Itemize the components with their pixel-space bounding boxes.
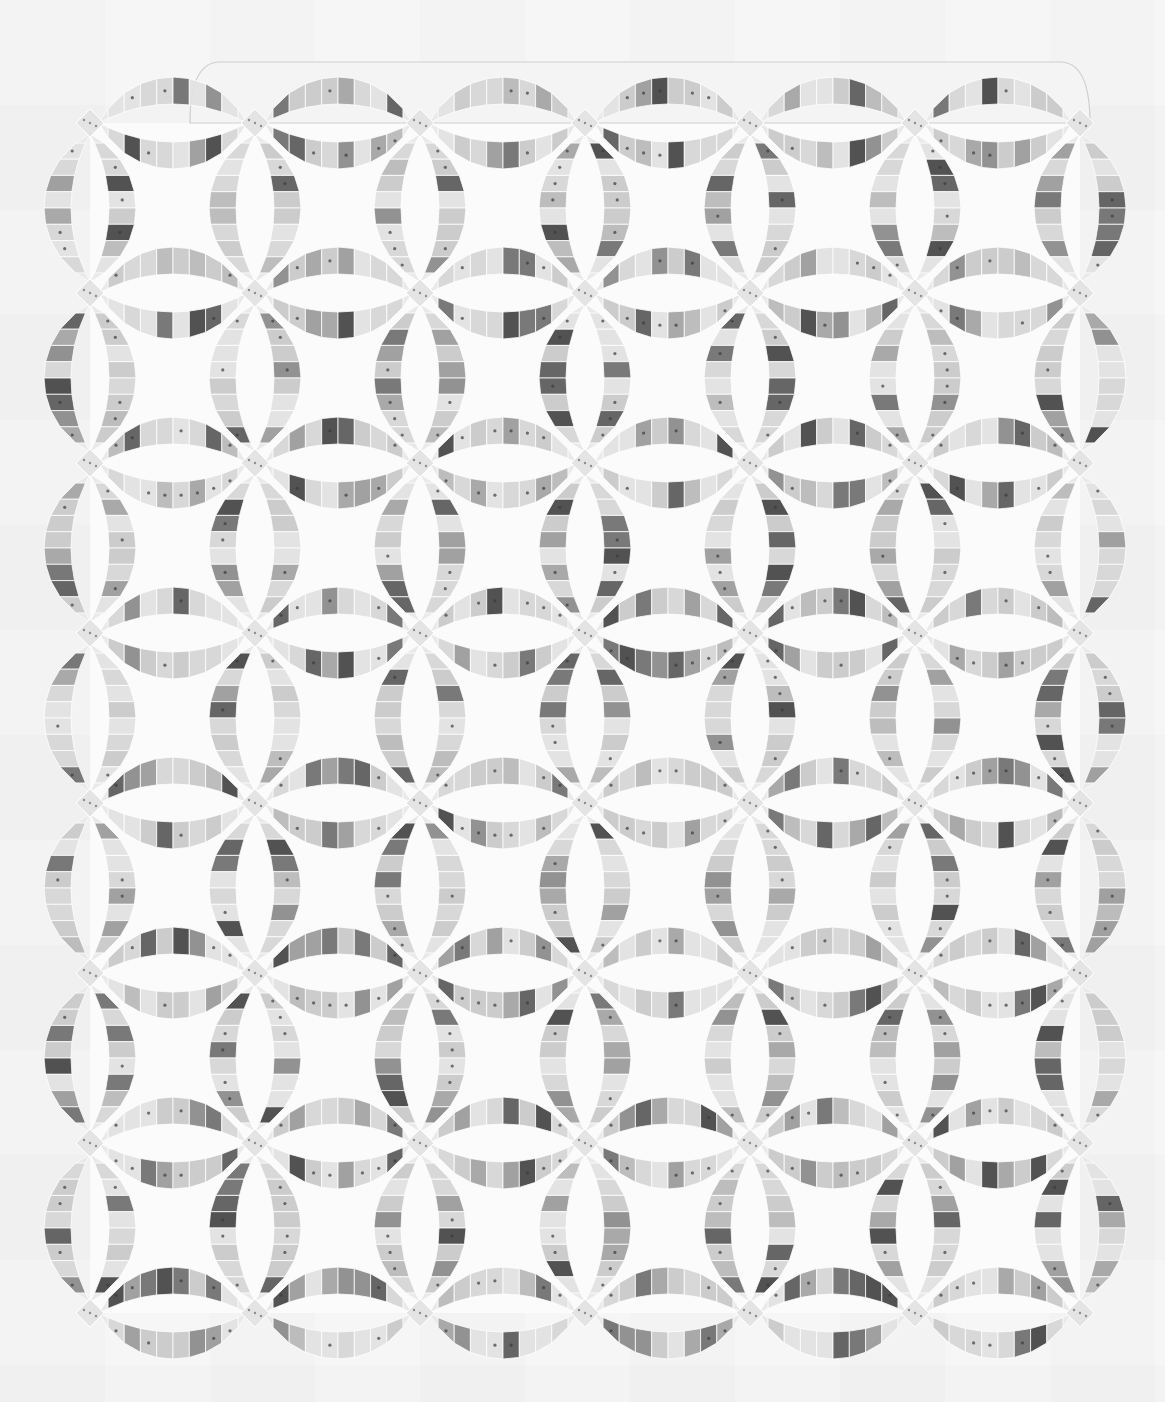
cornerstone-dot	[89, 632, 91, 634]
print-dot	[658, 154, 661, 157]
print-dot	[131, 1286, 134, 1289]
cornerstone-dot	[248, 289, 250, 291]
patch	[305, 929, 321, 958]
patch	[503, 141, 519, 169]
patch	[1091, 839, 1119, 855]
cornerstone-dot	[248, 1139, 250, 1141]
patch	[998, 1267, 1014, 1295]
patch	[436, 224, 465, 240]
patch	[704, 1228, 732, 1244]
print-dot	[774, 247, 777, 250]
print-dot	[436, 999, 439, 1002]
print-dot	[542, 1167, 545, 1170]
cornerstone-dot	[425, 805, 427, 807]
print-dot	[1053, 1124, 1056, 1127]
print-dot	[791, 147, 794, 150]
cornerstone-dot	[749, 292, 751, 294]
print-dot	[510, 939, 513, 942]
patch	[871, 394, 900, 410]
patch	[539, 532, 567, 548]
quilt-image	[0, 0, 1165, 1402]
print-dot	[554, 911, 557, 914]
patch	[668, 1097, 684, 1125]
cornerstone-dot	[413, 289, 415, 291]
print-dot	[1111, 725, 1114, 728]
print-dot	[328, 1344, 331, 1347]
print-dot	[558, 166, 561, 169]
cornerstone-dot	[908, 119, 910, 121]
print-dot	[888, 757, 891, 760]
print-dot	[956, 657, 959, 660]
patch	[603, 362, 631, 378]
print-dot	[626, 827, 629, 830]
print-dot	[377, 606, 380, 609]
cornerstone-dot	[920, 125, 922, 127]
patch	[51, 159, 79, 175]
patch	[354, 649, 370, 678]
print-dot	[766, 149, 769, 152]
patch	[982, 1161, 998, 1189]
cornerstone-dot	[908, 629, 910, 631]
patch	[768, 208, 796, 224]
print-dot	[791, 1167, 794, 1170]
patch	[603, 1228, 631, 1244]
cornerstone-dot	[1085, 465, 1087, 467]
print-dot	[436, 433, 439, 436]
patch	[322, 1097, 338, 1125]
patch	[376, 685, 405, 701]
patch	[931, 224, 960, 240]
patch	[354, 589, 370, 618]
patch	[684, 1269, 700, 1298]
patch	[108, 362, 136, 378]
patch	[436, 175, 465, 191]
print-dot	[542, 436, 545, 439]
print-dot	[286, 1235, 289, 1238]
print-dot	[510, 834, 513, 837]
print-dot	[436, 1283, 439, 1286]
patch	[603, 702, 631, 718]
patch	[305, 1329, 321, 1358]
patch	[46, 515, 75, 531]
cornerstone-dot	[254, 1312, 256, 1314]
print-dot	[626, 317, 629, 320]
print-dot	[888, 927, 891, 930]
patch	[211, 855, 240, 871]
patch	[652, 991, 668, 1019]
patch	[684, 309, 700, 338]
patch	[817, 821, 833, 849]
patch	[273, 1212, 301, 1228]
cornerstone-dot	[95, 635, 97, 637]
patch	[768, 1058, 796, 1074]
patch	[541, 1074, 570, 1090]
print-dot	[558, 506, 561, 509]
print-dot	[393, 247, 396, 250]
patch	[1047, 1318, 1063, 1344]
patch	[635, 759, 651, 788]
patch	[271, 515, 300, 531]
print-dot	[778, 401, 781, 404]
cornerstone-dot	[578, 1309, 580, 1311]
print-dot	[401, 433, 404, 436]
patch	[51, 921, 79, 937]
print-dot	[988, 1109, 991, 1112]
patch	[354, 79, 370, 108]
print-dot	[526, 661, 529, 664]
print-dot	[389, 1251, 392, 1254]
print-dot	[1021, 661, 1024, 664]
print-dot	[228, 479, 231, 482]
print-dot	[972, 772, 975, 775]
print-dot	[719, 1202, 722, 1205]
print-dot	[823, 939, 826, 942]
print-dot	[1061, 943, 1064, 946]
patch	[766, 564, 795, 580]
patch	[51, 1261, 79, 1277]
patch	[652, 1097, 668, 1125]
patch	[436, 1195, 465, 1211]
print-dot	[542, 827, 545, 830]
print-dot	[939, 309, 942, 312]
patch	[998, 1331, 1014, 1359]
print-dot	[296, 997, 299, 1000]
patch	[1036, 394, 1065, 410]
patch	[438, 532, 466, 548]
patch	[635, 1269, 651, 1298]
